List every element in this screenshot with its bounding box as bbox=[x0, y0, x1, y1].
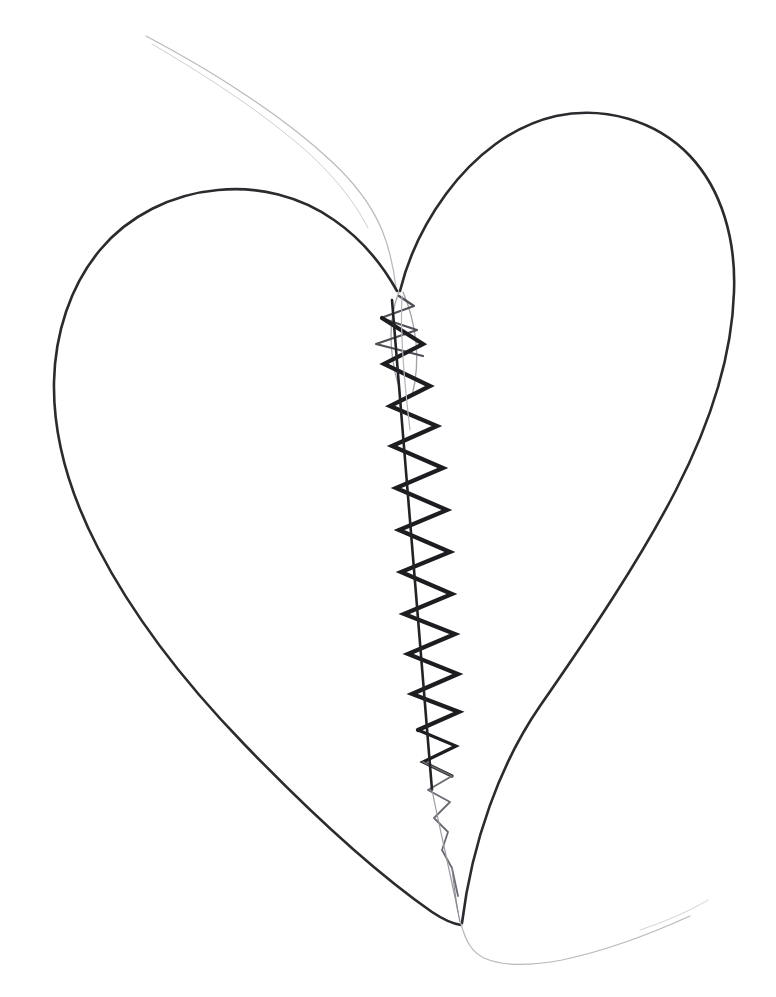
artboard: Stitched Heart A hand-drawn pencil outli… bbox=[0, 0, 776, 997]
heart-drawing-svg: Stitched Heart A hand-drawn pencil outli… bbox=[0, 0, 776, 997]
paper-background bbox=[0, 0, 776, 997]
